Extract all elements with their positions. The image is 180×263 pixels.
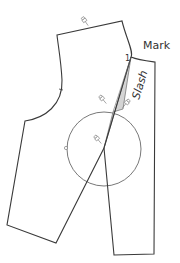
left-pattern-piece (7, 21, 132, 243)
slash-label: Slash (129, 69, 150, 101)
point-number-label: 1 (125, 54, 130, 63)
armhole-notch (59, 89, 63, 90)
pin-icon (81, 16, 90, 26)
bodice-slash-diagram: Mark 1 Slash (0, 0, 180, 263)
pin-icon (98, 95, 107, 105)
mark-label: Mark (143, 39, 171, 52)
pin-icon (93, 135, 102, 145)
circle-marker-dot (64, 146, 67, 149)
right-pattern-piece (104, 57, 155, 255)
